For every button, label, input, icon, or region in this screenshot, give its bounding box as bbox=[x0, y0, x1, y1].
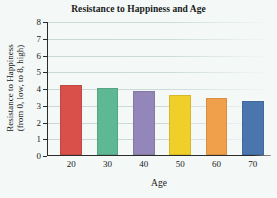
y-tick-mark bbox=[43, 89, 47, 90]
y-tick-label: 2 bbox=[37, 118, 42, 127]
gridline bbox=[47, 39, 271, 40]
bar bbox=[133, 91, 155, 155]
y-tick-mark bbox=[43, 39, 47, 40]
y-axis-label-line2: (from 0, low, to 8, high) bbox=[15, 44, 25, 131]
y-tick-label: 4 bbox=[37, 85, 42, 94]
x-tick-label: 40 bbox=[139, 160, 148, 169]
y-tick-mark bbox=[43, 156, 47, 157]
bar bbox=[97, 88, 119, 155]
y-tick-label: 3 bbox=[37, 101, 42, 110]
x-axis-label: Age bbox=[47, 178, 271, 188]
y-axis-label-line1: Resistance to Happiness bbox=[5, 44, 15, 131]
x-tick-label: 60 bbox=[212, 160, 221, 169]
gridline bbox=[47, 72, 271, 73]
bar bbox=[242, 101, 264, 155]
gridline bbox=[47, 22, 271, 23]
y-tick-mark bbox=[43, 123, 47, 124]
y-axis-label: Resistance to Happiness (from 0, low, to… bbox=[0, 18, 30, 158]
gridline bbox=[47, 56, 271, 57]
y-tick-label: 7 bbox=[37, 34, 42, 43]
chart-title: Resistance to Happiness and Age bbox=[0, 4, 277, 14]
x-axis-line bbox=[47, 155, 271, 156]
bar bbox=[169, 95, 191, 155]
bar bbox=[60, 85, 82, 155]
x-tick-label: 30 bbox=[103, 160, 112, 169]
y-tick-mark bbox=[43, 22, 47, 23]
bar-chart: Resistance to Happiness and Age Resistan… bbox=[0, 0, 277, 198]
y-tick-label: 6 bbox=[37, 51, 42, 60]
y-tick-mark bbox=[43, 139, 47, 140]
y-tick-mark bbox=[43, 56, 47, 57]
x-tick-label: 70 bbox=[248, 160, 257, 169]
x-tick-label: 50 bbox=[176, 160, 185, 169]
y-tick-label: 1 bbox=[37, 135, 42, 144]
x-tick-label: 20 bbox=[67, 160, 76, 169]
y-tick-label: 5 bbox=[37, 68, 42, 77]
y-tick-label: 8 bbox=[37, 18, 42, 27]
y-tick-mark bbox=[43, 106, 47, 107]
plot-area: 012345678 203040506070 bbox=[47, 22, 271, 156]
y-tick-mark bbox=[43, 72, 47, 73]
y-tick-label: 0 bbox=[37, 152, 42, 161]
bar bbox=[206, 98, 228, 155]
y-axis-line bbox=[47, 22, 48, 156]
